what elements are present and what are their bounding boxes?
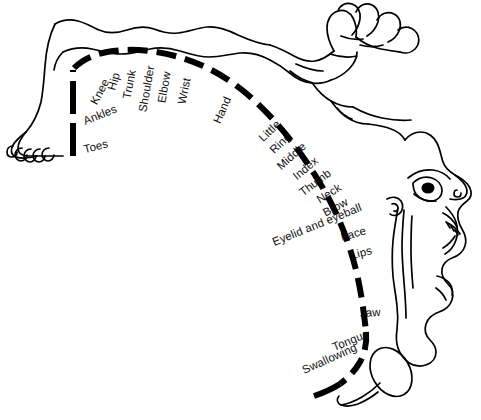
eye-pupil xyxy=(422,183,435,194)
ear-inner xyxy=(392,204,398,212)
nose-outline xyxy=(450,175,467,200)
tongue-blob xyxy=(362,340,421,404)
finger-little xyxy=(398,27,419,53)
thumb-crease xyxy=(337,108,352,119)
knee-crease xyxy=(54,52,63,70)
strip-label-jaw: Jaw xyxy=(360,307,382,320)
cortical-strip-swallowing xyxy=(314,384,340,396)
homunculus-figure xyxy=(0,0,481,420)
nostril xyxy=(454,190,461,197)
head-outline xyxy=(405,132,471,366)
finger-ring xyxy=(377,13,400,42)
head-top-outline xyxy=(353,107,411,120)
body-outline-group xyxy=(7,3,471,366)
cheek-line-2 xyxy=(411,216,413,288)
hand-palm-line xyxy=(330,54,357,57)
hand-outline xyxy=(327,10,356,51)
chin-outline xyxy=(437,276,452,295)
homunculus-diagram: ToesAnklesKneeHipTrunkShoulderElbowWrist… xyxy=(0,0,481,420)
arm-upper-outline xyxy=(270,45,334,61)
toe-5 xyxy=(42,148,54,161)
cheek-line xyxy=(402,210,406,318)
jaw-outline xyxy=(392,208,409,363)
leg-outline xyxy=(18,24,63,156)
palm-crease xyxy=(296,64,323,71)
neck-outline xyxy=(368,124,405,140)
chin-crease xyxy=(436,288,446,300)
ear-outline xyxy=(387,197,403,215)
thigh-top-outline xyxy=(55,20,270,45)
